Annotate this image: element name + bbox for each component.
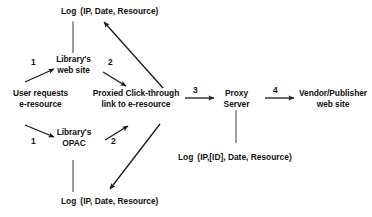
librarys-opac-line-1: Library's bbox=[48, 127, 100, 138]
librarys-web-site-line-2: web site bbox=[46, 65, 101, 76]
proxied-click-through-line-1: Proxied Click-through bbox=[86, 88, 186, 99]
log-record-top: Log(IP, Date, Resource) bbox=[61, 6, 158, 17]
proxy-server-line-1: Proxy bbox=[214, 88, 259, 99]
log-record-proxy-fields: (IP,[ID], Date, Resource) bbox=[197, 152, 291, 162]
vendor-publisher-line-2: web site bbox=[297, 99, 369, 110]
proxy-server-line-2: Server bbox=[214, 99, 259, 110]
edge-library-opac-to-proxied bbox=[105, 126, 128, 140]
edge-proxied-to-log-top bbox=[104, 22, 163, 88]
vendor-publisher-line-1: Vendor/Publisher bbox=[297, 88, 369, 99]
log-record-bottom-label: Log bbox=[61, 196, 76, 206]
log-record-proxy: Log(IP,[ID], Date, Resource) bbox=[178, 152, 292, 163]
step-label-1-opac: 1 bbox=[31, 136, 36, 146]
librarys-opac-node: Library's OPAC bbox=[48, 127, 100, 148]
proxy-server-node: Proxy Server bbox=[214, 88, 259, 109]
step-label-3-proxy: 3 bbox=[193, 85, 198, 95]
step-label-2-opac: 2 bbox=[111, 136, 116, 146]
edge-proxied-to-log-bottom bbox=[110, 124, 160, 189]
librarys-web-site-line-1: Library's bbox=[46, 54, 101, 65]
diagram-canvas: Log(IP, Date, Resource) User requests e-… bbox=[0, 0, 372, 217]
edge-library-web-to-proxied bbox=[103, 72, 126, 86]
librarys-web-site-node: Library's web site bbox=[46, 54, 101, 75]
vendor-publisher-node: Vendor/Publisher web site bbox=[297, 88, 369, 109]
log-record-proxy-label: Log bbox=[178, 152, 193, 162]
user-requests-line-1: User requests bbox=[0, 88, 81, 99]
step-label-4-vendor: 4 bbox=[273, 85, 278, 95]
step-label-1-web: 1 bbox=[31, 57, 36, 67]
proxied-click-through-line-2: link to e-resource bbox=[86, 99, 186, 110]
librarys-opac-line-2: OPAC bbox=[48, 138, 100, 149]
log-record-bottom-fields: (IP, Date, Resource) bbox=[80, 196, 158, 206]
user-requests-node: User requests e-resource bbox=[0, 88, 81, 109]
user-requests-line-2: e-resource bbox=[0, 99, 81, 110]
log-record-top-label: Log bbox=[61, 6, 76, 16]
step-label-2-web: 2 bbox=[108, 57, 113, 67]
proxied-click-through-node: Proxied Click-through link to e-resource bbox=[86, 88, 186, 109]
log-record-top-fields: (IP, Date, Resource) bbox=[80, 6, 158, 16]
log-record-bottom: Log(IP, Date, Resource) bbox=[61, 196, 158, 207]
